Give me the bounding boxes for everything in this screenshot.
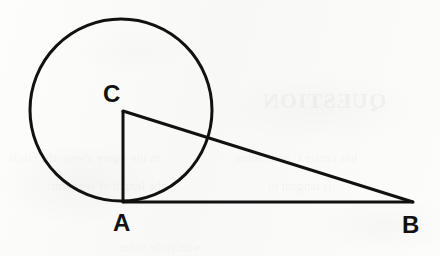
label-point-A: A bbox=[113, 211, 130, 235]
label-point-B: B bbox=[402, 213, 419, 237]
geometry-figure: QUESTION in the figure above, the circle… bbox=[0, 0, 440, 256]
label-center-C: C bbox=[103, 82, 120, 106]
vertex-point-A bbox=[121, 200, 124, 203]
vertex-point-B bbox=[411, 200, 414, 203]
diagram-canvas bbox=[0, 0, 440, 256]
vertex-point-C bbox=[121, 109, 124, 112]
circle-C bbox=[30, 19, 212, 201]
